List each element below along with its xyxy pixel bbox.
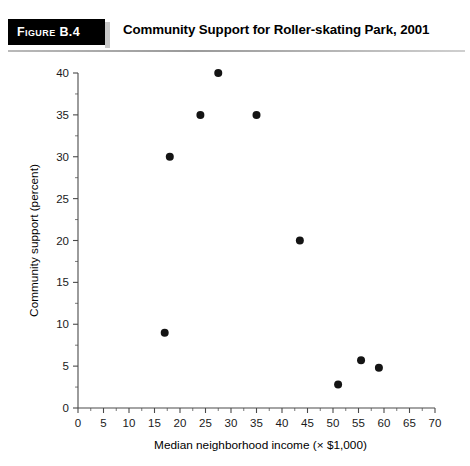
figure-header: Figure B.4 Community Support for Roller-… bbox=[0, 0, 470, 54]
badge-shadow-decoration bbox=[105, 22, 110, 48]
y-tick-label: 5 bbox=[63, 360, 69, 372]
x-tick-label: 20 bbox=[174, 417, 187, 429]
y-axis-tick-labels: 0510152025303540 bbox=[56, 67, 69, 414]
data-point bbox=[375, 364, 383, 372]
x-tick-label: 60 bbox=[378, 417, 391, 429]
data-point bbox=[357, 356, 365, 364]
y-tick-label: 25 bbox=[56, 193, 69, 205]
x-tick-label: 35 bbox=[250, 417, 263, 429]
x-tick-label: 40 bbox=[276, 417, 289, 429]
y-tick-label: 10 bbox=[56, 318, 69, 330]
y-tick-label: 40 bbox=[56, 67, 69, 79]
data-point bbox=[334, 381, 342, 389]
header-divider bbox=[8, 50, 465, 52]
y-tick-label: 30 bbox=[56, 151, 69, 163]
x-tick-label: 65 bbox=[403, 417, 416, 429]
y-tick-label: 35 bbox=[56, 109, 69, 121]
data-points-group bbox=[161, 69, 383, 389]
y-tick-label: 20 bbox=[56, 235, 69, 247]
data-point bbox=[166, 153, 174, 161]
scatter-plot-container: 0510152025303540 05101520253035404550556… bbox=[0, 54, 470, 466]
x-tick-label: 5 bbox=[100, 417, 106, 429]
data-point bbox=[161, 329, 169, 337]
x-tick-label: 25 bbox=[199, 417, 212, 429]
x-tick-label: 70 bbox=[429, 417, 442, 429]
data-point bbox=[253, 111, 261, 119]
x-tick-label: 55 bbox=[352, 417, 365, 429]
x-tick-label: 15 bbox=[148, 417, 161, 429]
x-tick-label: 45 bbox=[301, 417, 314, 429]
x-tick-label: 10 bbox=[123, 417, 136, 429]
y-tick-label: 0 bbox=[63, 402, 69, 414]
x-tick-label: 30 bbox=[225, 417, 238, 429]
data-point bbox=[296, 237, 304, 245]
scatter-plot-svg: 0510152025303540 05101520253035404550556… bbox=[0, 54, 470, 466]
axis-lines bbox=[78, 73, 435, 408]
axis-tick-marks bbox=[73, 73, 435, 413]
x-tick-label: 50 bbox=[327, 417, 340, 429]
x-axis-tick-labels: 0510152025303540455055606570 bbox=[75, 417, 442, 429]
y-tick-label: 15 bbox=[56, 276, 69, 288]
figure-title: Community Support for Roller-skating Par… bbox=[123, 22, 429, 37]
figure-number-badge: Figure B.4 bbox=[8, 19, 105, 45]
y-axis-title: Community support (percent) bbox=[27, 164, 41, 317]
x-tick-label: 0 bbox=[75, 417, 81, 429]
x-axis-title: Median neighborhood income (× $1,000) bbox=[154, 438, 367, 452]
data-point bbox=[214, 69, 222, 77]
data-point bbox=[196, 111, 204, 119]
